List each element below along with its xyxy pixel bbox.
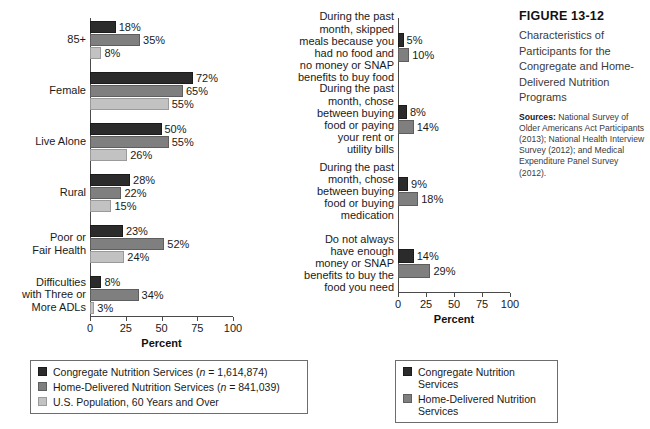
category-label: Poor orFair Health bbox=[6, 231, 86, 255]
bar bbox=[90, 251, 124, 263]
x-axis-tick bbox=[197, 317, 198, 321]
x-axis-tick bbox=[162, 317, 163, 321]
figure-root: 0255075100Percent85+18%35%8%Female72%65%… bbox=[0, 0, 650, 429]
bar bbox=[398, 264, 430, 278]
bar-value-label: 8% bbox=[104, 48, 120, 59]
bar bbox=[90, 85, 183, 97]
y-axis-line bbox=[90, 18, 91, 316]
x-axis-tick-label: 0 bbox=[70, 322, 110, 334]
legend-item-label: U.S. Population, 60 Years and Over bbox=[53, 396, 219, 408]
bar bbox=[398, 192, 418, 206]
bar bbox=[398, 48, 409, 62]
bar-value-label: 24% bbox=[127, 252, 149, 263]
bar-value-label: 72% bbox=[196, 73, 218, 84]
bar-value-label: 15% bbox=[114, 201, 136, 212]
bar bbox=[90, 34, 140, 46]
chart-characteristics: 0255075100Percent85+18%35%8%Female72%65%… bbox=[0, 0, 250, 345]
x-axis-tick bbox=[233, 317, 234, 321]
x-axis-title: Percent bbox=[394, 313, 514, 325]
x-axis-tick-label: 25 bbox=[106, 322, 146, 334]
bar bbox=[90, 276, 101, 288]
category-label: Live Alone bbox=[6, 135, 86, 147]
legend-characteristics: Congregate Nutrition Services (n = 1,614… bbox=[30, 360, 308, 414]
category-label: Female bbox=[6, 84, 86, 96]
x-axis-tick-label: 100 bbox=[490, 298, 530, 310]
category-label: During the pastmonth, chosebetween buyin… bbox=[274, 82, 394, 155]
figure-title: Characteristics of Participants for the … bbox=[519, 28, 645, 106]
bar-value-label: 50% bbox=[165, 124, 187, 135]
x-axis-tick bbox=[426, 293, 427, 297]
bar-value-label: 18% bbox=[421, 194, 443, 205]
bar-value-label: 22% bbox=[124, 188, 146, 199]
bar-value-label: 8% bbox=[104, 277, 120, 288]
legend-food-insecurity: Congregate Nutrition Services Home-Deliv… bbox=[395, 360, 558, 423]
x-axis-tick bbox=[90, 317, 91, 321]
bar-value-label: 55% bbox=[172, 99, 194, 110]
legend-swatch-congregate-icon bbox=[403, 367, 412, 376]
bar bbox=[90, 174, 130, 186]
x-axis-tick bbox=[510, 293, 511, 297]
bar-value-label: 9% bbox=[411, 179, 427, 190]
legend-item-label: Home-Delivered Nutrition Services (n = 8… bbox=[53, 381, 280, 393]
bar bbox=[398, 33, 404, 47]
category-label: During the pastmonth, chosebetween buyin… bbox=[274, 161, 394, 222]
chart-food-insecurity: 0255075100PercentDuring the pastmonth, s… bbox=[250, 0, 515, 345]
x-axis-title: Percent bbox=[102, 337, 222, 349]
bar bbox=[90, 123, 162, 135]
category-label: Do not alwayshave enoughmoney or SNAPben… bbox=[274, 233, 394, 294]
figure-number: FIGURE 13-12 bbox=[519, 9, 645, 23]
bar bbox=[90, 72, 193, 84]
bar bbox=[90, 187, 121, 199]
legend-swatch-congregate-icon bbox=[38, 367, 47, 376]
x-axis-tick bbox=[482, 293, 483, 297]
legend-item[interactable]: U.S. Population, 60 Years and Over bbox=[38, 396, 299, 408]
category-label: Rural bbox=[6, 186, 86, 198]
bar-value-label: 29% bbox=[433, 266, 455, 277]
bar-value-label: 28% bbox=[133, 175, 155, 186]
x-axis-tick bbox=[454, 293, 455, 297]
bar-value-label: 35% bbox=[143, 35, 165, 46]
bar bbox=[90, 149, 127, 161]
bar-value-label: 23% bbox=[126, 226, 148, 237]
bar bbox=[398, 249, 414, 263]
bar-value-label: 10% bbox=[412, 50, 434, 61]
legend-item-label: Congregate Nutrition Services bbox=[418, 366, 549, 390]
legend-item-label: Congregate Nutrition Services (n = 1,614… bbox=[53, 366, 268, 378]
bar-value-label: 26% bbox=[130, 150, 152, 161]
legend-item[interactable]: Congregate Nutrition Services bbox=[403, 366, 549, 390]
bar-value-label: 18% bbox=[119, 22, 141, 33]
bar-value-label: 14% bbox=[417, 122, 439, 133]
category-label: 85+ bbox=[6, 33, 86, 45]
bar-value-label: 34% bbox=[142, 290, 164, 301]
bar-value-label: 14% bbox=[417, 251, 439, 262]
sources-label: Sources: bbox=[519, 112, 556, 122]
x-axis-tick-label: 100 bbox=[213, 322, 253, 334]
legend-item[interactable]: Home-Delivered Nutrition Services bbox=[403, 393, 549, 417]
bar bbox=[90, 238, 164, 250]
bar bbox=[90, 200, 111, 212]
bar bbox=[90, 289, 139, 301]
bar-value-label: 5% bbox=[407, 35, 423, 46]
bar bbox=[90, 225, 123, 237]
figure-caption: FIGURE 13-12 Characteristics of Particip… bbox=[519, 9, 645, 179]
bar-value-label: 52% bbox=[167, 239, 189, 250]
bar-value-label: 55% bbox=[172, 137, 194, 148]
legend-item-label: Home-Delivered Nutrition Services bbox=[418, 393, 549, 417]
legend-item[interactable]: Home-Delivered Nutrition Services (n = 8… bbox=[38, 381, 299, 393]
category-label: During the pastmonth, skippedmeals becau… bbox=[274, 10, 394, 83]
bar bbox=[398, 120, 414, 134]
legend-swatch-us-population-icon bbox=[38, 397, 47, 406]
bar bbox=[90, 302, 94, 314]
bar bbox=[398, 105, 407, 119]
bar bbox=[398, 177, 408, 191]
bar bbox=[90, 98, 169, 110]
x-axis-tick-label: 50 bbox=[142, 322, 182, 334]
category-label: Difficultieswith Three orMore ADLs bbox=[6, 276, 86, 313]
legend-item[interactable]: Congregate Nutrition Services (n = 1,614… bbox=[38, 366, 299, 378]
x-axis-tick-label: 75 bbox=[177, 322, 217, 334]
bar-value-label: 3% bbox=[97, 303, 113, 314]
bar bbox=[90, 47, 101, 59]
bar bbox=[90, 136, 169, 148]
legend-swatch-home-delivered-icon bbox=[403, 394, 412, 403]
bar-value-label: 8% bbox=[410, 107, 426, 118]
